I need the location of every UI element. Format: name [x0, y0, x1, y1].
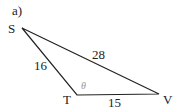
vertex-label-s: S — [8, 21, 15, 36]
side-label-st: 16 — [34, 58, 48, 73]
triangle-diagram: a) S T V 28 16 15 θ — [0, 0, 181, 111]
vertex-label-t: T — [63, 92, 71, 107]
angle-theta-label: θ — [81, 80, 86, 91]
part-label: a) — [12, 3, 22, 18]
side-label-tv: 15 — [108, 95, 121, 110]
vertex-label-v: V — [163, 92, 173, 107]
side-label-sv: 28 — [92, 47, 105, 62]
